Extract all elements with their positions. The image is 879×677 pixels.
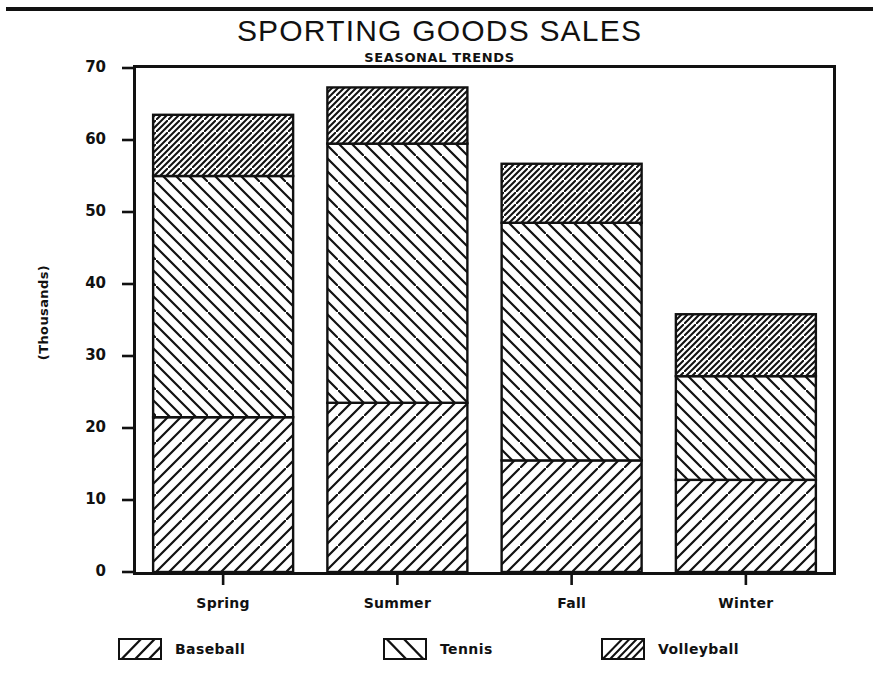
bar-segment: [676, 376, 816, 480]
legend-item-baseball: Baseball: [118, 634, 245, 664]
legend-item-volleyball: Volleyball: [601, 634, 739, 664]
bar-segment: [153, 115, 293, 176]
bar-segment: [502, 223, 642, 461]
chart-plot-area: (Thousands) 010203040506070 SpringSummer…: [0, 0, 879, 677]
bar-segment: [502, 460, 642, 572]
y-axis-tick-label: 30: [64, 348, 106, 363]
legend-swatch-baseball-icon: [118, 638, 162, 660]
y-axis-tick-label: 50: [64, 204, 106, 219]
legend-swatch-tennis-icon: [383, 638, 427, 660]
y-axis-tick-label: 70: [64, 60, 106, 75]
legend-label-baseball: Baseball: [175, 641, 245, 657]
legend-label-volleyball: Volleyball: [658, 641, 739, 657]
bar-segment: [327, 87, 467, 143]
y-axis-title: (Thousands): [36, 243, 51, 383]
y-axis-tick-label: 0: [64, 564, 106, 579]
bar-segment: [327, 144, 467, 403]
y-axis-tick-label: 20: [64, 420, 106, 435]
legend-label-tennis: Tennis: [440, 641, 493, 657]
chart-legend: Baseball Tennis Volleyball: [0, 634, 879, 670]
bar-segment: [153, 417, 293, 572]
bar-segment: [502, 164, 642, 223]
x-axis-tick-label: Fall: [492, 596, 652, 610]
bar-segment: [676, 480, 816, 572]
legend-swatch-volleyball-icon: [601, 638, 645, 660]
y-axis-tick-label: 10: [64, 492, 106, 507]
y-axis-tick-label: 40: [64, 276, 106, 291]
legend-item-tennis: Tennis: [383, 634, 493, 664]
y-axis-tick-label: 60: [64, 132, 106, 147]
bar-segment: [676, 314, 816, 376]
bar-segment: [327, 403, 467, 572]
bar-series-group: [153, 87, 816, 572]
x-axis-tick-label: Winter: [666, 596, 826, 610]
x-axis-tick-label: Summer: [317, 596, 477, 610]
x-axis-tick-label: Spring: [143, 596, 303, 610]
stacked-bar-chart-svg: [0, 0, 879, 677]
bar-segment: [153, 176, 293, 417]
